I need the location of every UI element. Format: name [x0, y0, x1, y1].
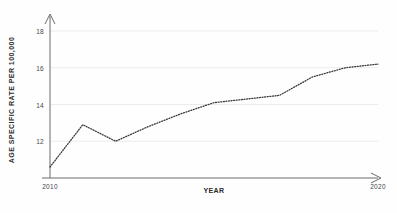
gridlines: [50, 31, 378, 141]
plot-area: [0, 0, 397, 213]
chart-screenshot: AGE SPECIFIC RATE PER 100,000 YEAR 12141…: [0, 0, 397, 213]
line-chart-figure: AGE SPECIFIC RATE PER 100,000 YEAR 12141…: [0, 0, 397, 213]
axis-lines: [42, 14, 381, 183]
data-series-line: [50, 64, 378, 167]
